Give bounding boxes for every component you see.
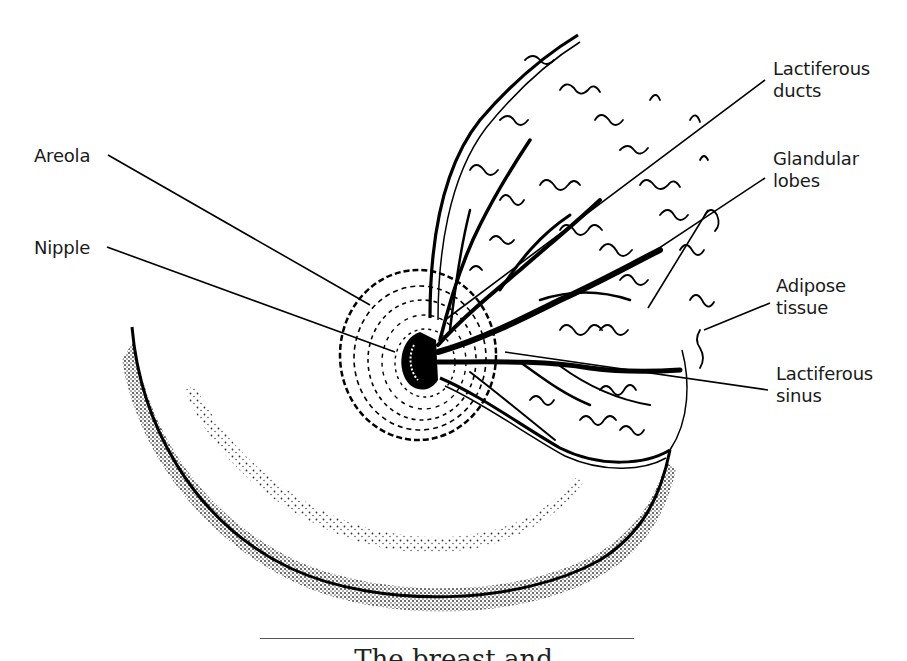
leader-line-lactiferous-sinus <box>505 352 768 390</box>
label-glandular-lobes: Glandular lobes <box>773 148 859 192</box>
nipple-shape <box>401 332 438 390</box>
leader-line-adipose-tissue <box>704 303 770 330</box>
label-areola: Areola <box>34 145 90 167</box>
label-lactiferous-sinus: Lactiferous sinus <box>776 363 873 407</box>
label-text-line1: Lactiferous <box>776 363 873 385</box>
label-text-line1: Glandular <box>773 148 859 170</box>
label-nipple: Nipple <box>34 237 90 259</box>
label-text-line1: Lactiferous <box>773 58 870 80</box>
label-text-line2: ducts <box>773 80 870 102</box>
leader-line-areola <box>108 155 370 305</box>
leader-line-glandular-lobes <box>648 210 708 308</box>
label-adipose-tissue: Adipose tissue <box>776 275 846 319</box>
label-text: Areola <box>34 145 90 167</box>
illustration <box>0 0 907 661</box>
label-text-line2: sinus <box>776 385 873 407</box>
label-text: Nipple <box>34 237 90 259</box>
breast-anatomy-diagram: Areola Nipple Lactiferous ducts Glandula… <box>0 0 907 661</box>
label-lactiferous-ducts: Lactiferous ducts <box>773 58 870 102</box>
figure-caption: The breast and <box>0 644 907 661</box>
label-text-line2: lobes <box>773 170 859 192</box>
label-text-line1: Adipose <box>776 275 846 297</box>
leader-line-nipple <box>107 247 395 352</box>
label-text-line2: tissue <box>776 297 846 319</box>
caption-divider <box>260 638 634 639</box>
